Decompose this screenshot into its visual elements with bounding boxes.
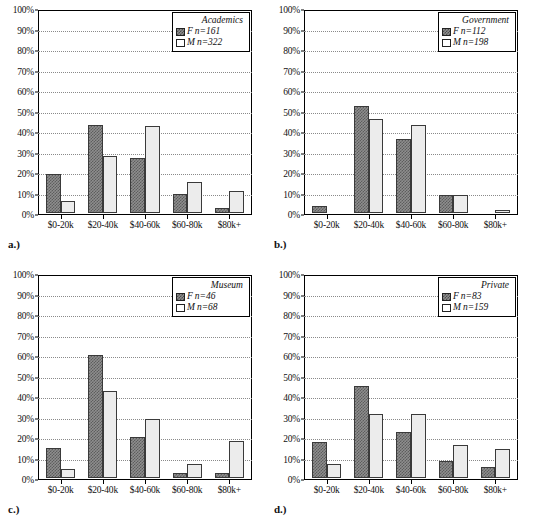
y-tick-label: 80% — [17, 46, 34, 56]
y-tick-mark — [301, 459, 304, 460]
legend-title-b: Government — [442, 15, 511, 26]
x-axis-labels-b: $0-20k$20-40k$40-60k$60-80k$80k+ — [304, 220, 518, 236]
x-tick-mark — [229, 480, 230, 484]
y-tick-label: 50% — [283, 108, 300, 118]
legend-c: Museum F n=46 M n=68 — [172, 277, 250, 317]
bar-male — [453, 195, 468, 213]
legend-swatch-female-icon — [176, 293, 185, 301]
bar-male — [369, 119, 384, 214]
bar-male — [495, 449, 510, 478]
y-tick-mark — [35, 51, 38, 52]
plot-d: 0%10%20%30%40%50%60%70%80%90%100% $0-20k… — [304, 275, 518, 480]
legend-swatch-male-icon — [442, 304, 451, 312]
y-tick-mark — [301, 357, 304, 358]
bar-male — [187, 182, 202, 213]
y-tick-label: 10% — [283, 455, 300, 465]
y-tick-mark — [301, 51, 304, 52]
y-tick-label: 20% — [17, 169, 34, 179]
bar-female — [46, 174, 61, 213]
panel-caption-c: c.) — [8, 503, 19, 515]
x-tick-mark — [453, 215, 454, 219]
y-tick-mark — [301, 112, 304, 113]
y-tick-label: 60% — [17, 87, 34, 97]
panel-c-museum: 0%10%20%30%40%50%60%70%80%90%100% $0-20k… — [0, 265, 266, 529]
y-tick-mark — [35, 153, 38, 154]
plot-a: 0%10%20%30%40%50%60%70%80%90%100% $0-20k… — [38, 10, 252, 215]
y-tick-label: 30% — [283, 414, 300, 424]
x-axis-label: $60-80k — [438, 220, 468, 230]
x-tick-mark — [103, 215, 104, 219]
y-tick-mark — [301, 215, 304, 216]
legend-swatch-female-icon — [442, 28, 451, 36]
y-tick-label: 90% — [17, 291, 34, 301]
y-tick-mark — [301, 174, 304, 175]
y-tick-label: 90% — [283, 291, 300, 301]
y-tick-label: 20% — [283, 169, 300, 179]
y-tick-label: 100% — [13, 5, 34, 15]
bar-female — [481, 467, 496, 478]
bar-male — [453, 445, 468, 478]
y-tick-label: 30% — [17, 414, 34, 424]
y-tick-label: 10% — [17, 190, 34, 200]
y-tick-label: 0% — [22, 210, 34, 220]
y-tick-mark — [35, 295, 38, 296]
y-tick-mark — [35, 336, 38, 337]
y-tick-label: 40% — [17, 128, 34, 138]
bar-female — [312, 206, 327, 213]
legend-title-d: Private — [442, 280, 511, 291]
y-tick-mark — [35, 174, 38, 175]
x-axis-label: $0-20k — [314, 485, 340, 495]
x-axis-label: $40-60k — [130, 485, 160, 495]
legend-row-male-b: M n=198 — [442, 37, 511, 48]
x-axis-label: $20-40k — [88, 220, 118, 230]
x-axis-label: $20-40k — [354, 220, 384, 230]
y-tick-label: 50% — [17, 108, 34, 118]
bar-female — [396, 432, 411, 478]
bar-female — [88, 125, 103, 214]
bar-male — [187, 464, 202, 478]
plot-b: 0%10%20%30%40%50%60%70%80%90%100% $0-20k… — [304, 10, 518, 215]
bar-female — [130, 437, 145, 478]
panel-caption-d: d.) — [274, 503, 287, 515]
y-tick-mark — [35, 71, 38, 72]
bar-male — [369, 414, 384, 479]
x-axis-label: $40-60k — [396, 485, 426, 495]
y-tick-label: 70% — [17, 332, 34, 342]
bar-female — [173, 194, 188, 213]
y-tick-mark — [301, 194, 304, 195]
bar-male — [411, 125, 426, 214]
x-axis-label: $20-40k — [88, 485, 118, 495]
legend-row-male-d: M n=159 — [442, 302, 511, 313]
y-tick-mark — [35, 398, 38, 399]
legend-row-male-c: M n=68 — [176, 302, 245, 313]
y-tick-mark — [301, 439, 304, 440]
y-tick-mark — [35, 10, 38, 11]
legend-female-label-b: F — [453, 26, 459, 37]
y-tick-label: 10% — [283, 190, 300, 200]
legend-male-label-a: M — [187, 37, 195, 48]
legend-male-label-b: M — [453, 37, 461, 48]
y-tick-mark — [35, 215, 38, 216]
legend-swatch-male-icon — [176, 304, 185, 312]
legend-row-male-a: M n=322 — [176, 37, 245, 48]
figure-multi-panel-bar-charts: 0%10%20%30%40%50%60%70%80%90%100% $0-20k… — [0, 0, 533, 529]
y-tick-label: 70% — [283, 67, 300, 77]
x-tick-mark — [453, 480, 454, 484]
legend-swatch-female-icon — [176, 28, 185, 36]
y-tick-label: 40% — [17, 393, 34, 403]
x-axis-label: $60-80k — [438, 485, 468, 495]
bar-female — [354, 386, 369, 479]
legend-swatch-female-icon — [442, 293, 451, 301]
x-axis-label: $40-60k — [396, 220, 426, 230]
legend-row-female-d: F n=83 — [442, 291, 511, 302]
y-tick-label: 20% — [17, 434, 34, 444]
y-tick-label: 60% — [17, 352, 34, 362]
y-tick-mark — [35, 194, 38, 195]
y-tick-mark — [301, 295, 304, 296]
y-tick-label: 40% — [283, 128, 300, 138]
bar-female — [439, 461, 454, 478]
x-axis-label: $0-20k — [48, 220, 74, 230]
y-tick-label: 60% — [283, 87, 300, 97]
y-tick-mark — [301, 418, 304, 419]
y-tick-mark — [301, 133, 304, 134]
